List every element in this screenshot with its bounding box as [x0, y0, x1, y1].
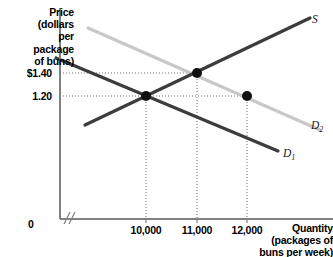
supply-demand-chart: Price (dollars per package of buns) $1.4… [0, 0, 333, 257]
y-axis-title-line-1: Price [0, 6, 74, 18]
demand-curve-d2 [88, 28, 320, 130]
y-axis-title-line-4: package [0, 43, 74, 55]
x-axis-title-line-1: Quantity [246, 222, 333, 234]
supply-curve-label-text: S [312, 13, 318, 25]
ytick-label-120: 1.20 [4, 90, 52, 102]
demand-curve-d2-label-sub: 2 [319, 125, 323, 134]
equilibrium-point-2 [192, 68, 202, 78]
demand-curve-d2-label: D2 [311, 119, 323, 134]
x-axis-title-line-3: buns per week) [246, 246, 333, 257]
y-axis-title-line-2: (dollars [0, 18, 74, 30]
demand-curve-d1-label: D1 [283, 147, 295, 162]
demand-curve-d1 [56, 58, 278, 151]
y-axis-title-line-5: of buns) [0, 55, 74, 67]
demand-curve-d1-label-sub: 1 [291, 153, 295, 162]
equilibrium-point-3 [242, 91, 252, 101]
x-axis-title-line-2: (packages of [246, 234, 333, 246]
y-axis-title-line-3: per [0, 30, 74, 42]
supply-curve-label: S [312, 13, 318, 25]
equilibrium-point-1 [141, 91, 151, 101]
ytick-label-140: $1.40 [4, 67, 52, 79]
origin-label: 0 [28, 218, 34, 230]
y-axis-title: Price (dollars per package of buns) [0, 6, 74, 67]
x-axis-title: Quantity (packages of buns per week) [246, 222, 333, 257]
